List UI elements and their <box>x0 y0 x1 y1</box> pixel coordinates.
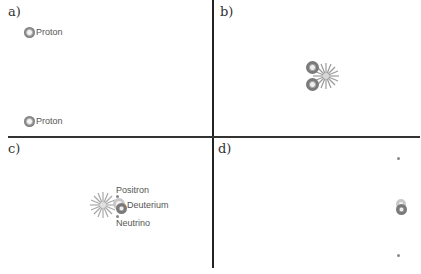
proton-icon <box>24 116 35 127</box>
vertical-divider <box>212 0 214 268</box>
positron-label: Positron <box>116 185 149 195</box>
panel-c-label: c) <box>8 141 20 156</box>
proton-icon <box>306 61 319 74</box>
neutrino-label: Neutrino <box>116 218 150 228</box>
deuterium-neutron-icon <box>116 203 127 214</box>
positron-icon <box>116 195 119 198</box>
panel-d-label: d) <box>218 141 231 156</box>
panel-b-label: b) <box>220 4 233 19</box>
proton-icon <box>306 78 319 91</box>
deuterium-neutron-icon <box>396 204 407 215</box>
neutrino-icon <box>397 254 400 257</box>
positron-icon <box>397 157 400 160</box>
proton-top-label: Proton <box>36 27 63 37</box>
proton-bottom-label: Proton <box>36 116 63 126</box>
proton-icon <box>24 27 35 38</box>
horizontal-divider <box>8 136 420 138</box>
deuterium-label: Deuterium <box>127 200 169 210</box>
panel-a-label: a) <box>8 4 21 19</box>
